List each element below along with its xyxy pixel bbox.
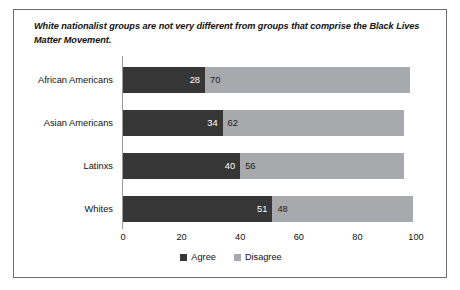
x-axis: 020406080100 (123, 229, 416, 245)
bar-segment-disagree[interactable]: 48 (272, 196, 413, 222)
x-axis-tick-label: 60 (294, 232, 304, 242)
bar-segment-agree[interactable]: 40 (123, 153, 240, 179)
legend-item[interactable]: Disagree (234, 252, 282, 262)
x-axis-tick-label: 20 (176, 232, 186, 242)
category-label: Latinxs (0, 153, 113, 179)
x-axis-tick-label: 100 (408, 232, 423, 242)
category-label: Whites (0, 196, 113, 222)
bar-segment-agree[interactable]: 34 (123, 110, 223, 136)
bar-segment-agree[interactable]: 51 (123, 196, 272, 222)
plot-area: African Americans 28 70 Asian Americans … (123, 62, 416, 229)
category-label: Asian Americans (0, 110, 113, 136)
bar-row: Asian Americans 34 62 (123, 110, 416, 136)
bar-segment-agree[interactable]: 28 (123, 67, 205, 93)
x-axis-tick-label: 80 (352, 232, 362, 242)
category-label: African Americans (0, 67, 113, 93)
bar-segment-disagree[interactable]: 62 (223, 110, 405, 136)
chart-legend: AgreeDisagree (14, 252, 448, 262)
legend-swatch (180, 254, 187, 261)
legend-label: Disagree (245, 252, 282, 262)
legend-swatch (234, 254, 241, 261)
legend-label: Agree (191, 252, 216, 262)
bar-segment-disagree[interactable]: 56 (240, 153, 404, 179)
chart-figure: White nationalist groups are not very di… (13, 9, 447, 278)
bar-row: African Americans 28 70 (123, 67, 416, 93)
bar-row: Latinxs 40 56 (123, 153, 416, 179)
x-axis-tick-label: 0 (120, 232, 125, 242)
bar-row: Whites 51 48 (123, 196, 416, 222)
bar-segment-disagree[interactable]: 70 (205, 67, 410, 93)
x-axis-tick-label: 40 (235, 232, 245, 242)
legend-item[interactable]: Agree (180, 252, 216, 262)
chart-title: White nationalist groups are not very di… (34, 20, 426, 47)
y-axis-cap (122, 56, 123, 62)
